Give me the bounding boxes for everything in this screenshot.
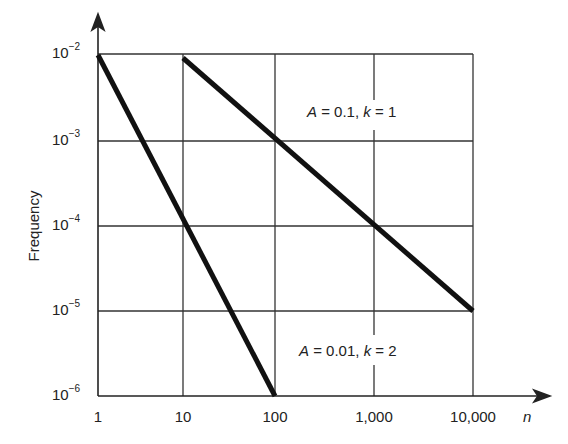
series-line-a01-k1 (183, 58, 473, 311)
svg-text:10−4: 10−4 (52, 213, 81, 233)
x-axis-label: n (523, 408, 531, 425)
svg-text:10−2: 10−2 (52, 41, 81, 61)
grid (98, 54, 473, 396)
annotation-a01-k1: A = 0.1, k = 1 (306, 103, 396, 120)
annotation-a001-k2: A = 0.01, k = 2 (298, 342, 397, 359)
svg-text:10−6: 10−6 (52, 383, 81, 403)
svg-text:1,000: 1,000 (355, 408, 393, 425)
svg-text:100: 100 (262, 408, 287, 425)
svg-text:1: 1 (94, 408, 102, 425)
log-log-chart: 10−2 10−3 10−4 10−5 10−6 1 10 100 1,000 … (0, 0, 568, 444)
y-tick-labels: 10−2 10−3 10−4 10−5 10−6 (52, 41, 81, 403)
x-tick-labels: 1 10 100 1,000 10,000 (94, 408, 496, 425)
svg-text:10: 10 (175, 408, 192, 425)
svg-text:10,000: 10,000 (450, 408, 496, 425)
y-axis-label: Frequency (25, 190, 42, 261)
svg-text:10−5: 10−5 (52, 298, 81, 318)
svg-text:10−3: 10−3 (52, 128, 81, 148)
